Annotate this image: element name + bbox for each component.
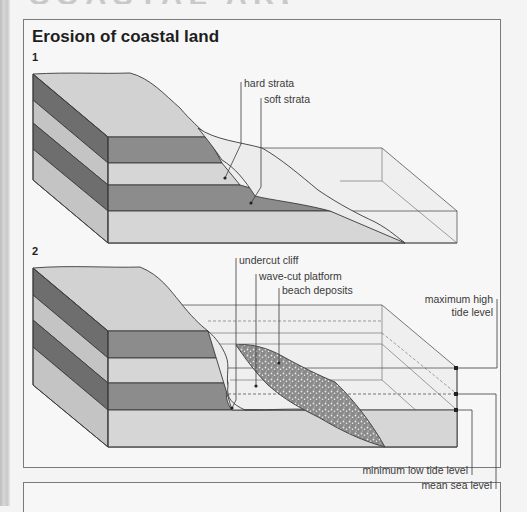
diagram-2 [33, 267, 458, 447]
max-high-tide-label-line1: maximum high [425, 293, 493, 305]
max-high-tide-label-line2: tide level [452, 306, 493, 318]
soft-strata-label: soft strata [264, 93, 310, 105]
min-low-tide-label: minimum low tide level [362, 464, 468, 476]
mean-sea-level-label: mean sea level [421, 479, 492, 491]
undercut-cliff-label: undercut cliff [239, 254, 298, 266]
wave-cut-platform-label: wave-cut platform [258, 270, 342, 282]
beach-deposits-label: beach deposits [282, 284, 353, 296]
diagram-1 [33, 73, 457, 243]
hard-strata-label: hard strata [244, 77, 294, 89]
